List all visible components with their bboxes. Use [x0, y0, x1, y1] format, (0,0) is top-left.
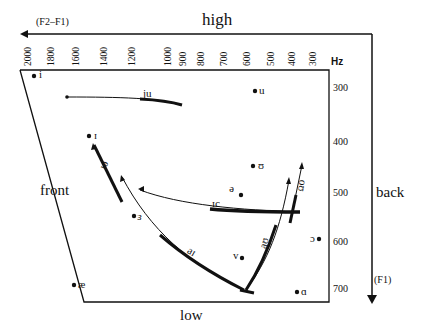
x-axis-note: (F2–F1)	[36, 16, 69, 27]
x-tick: 1400	[99, 47, 109, 66]
y-tick: 500	[333, 187, 348, 198]
x-tick: 1600	[71, 47, 81, 66]
x-tick: 2000	[23, 47, 33, 66]
diphthong-label-oi: ɔɪ	[212, 200, 220, 212]
y-axis-note: (F1)	[374, 274, 391, 285]
vowel-chart-graphics	[0, 0, 425, 334]
vowel-ash: æ	[78, 278, 85, 290]
vowel-u: u	[259, 84, 265, 96]
x-axis-arrowhead-icon	[20, 30, 28, 38]
low-label: low	[180, 307, 203, 324]
vowel-script-a: ɑ	[301, 285, 307, 297]
diphthong-label-ju: ju	[143, 87, 152, 99]
x-tick: 300	[308, 52, 318, 66]
y-axis-arrowhead-icon	[367, 295, 377, 304]
diphthong-label-ou: oʊ	[296, 179, 310, 192]
x-tick: 700	[219, 52, 229, 66]
vowel-i: i	[39, 68, 42, 80]
x-tick: 800	[196, 52, 206, 66]
y-tick: 600	[333, 236, 348, 247]
y-tick: 700	[333, 283, 348, 294]
vowel-wedge: ʌ	[233, 252, 239, 264]
diphthong-au-thin	[246, 180, 289, 290]
x-tick: 1800	[46, 47, 56, 66]
vowel-epsilon: ɛ	[137, 213, 142, 225]
x-tick: 600	[242, 52, 252, 66]
x-tick: 500	[266, 52, 276, 66]
high-label: high	[202, 10, 232, 30]
back-label: back	[376, 184, 404, 201]
diphthong-au-thick	[246, 225, 276, 290]
vowel-e: e	[229, 185, 234, 197]
diphthong-ei	[94, 145, 122, 202]
diphthong-ai-thin	[122, 177, 244, 290]
vowel-open-o: ɔ	[310, 232, 315, 244]
x-tick: 1000	[163, 47, 173, 66]
vowel-small-cap-i: ɪ	[94, 129, 97, 141]
x-tick: 400	[287, 52, 297, 66]
unit-label: Hz	[331, 56, 343, 67]
x-tick: 1200	[127, 47, 137, 66]
front-label: front	[40, 182, 69, 199]
vowel-upsilon: ʊ	[258, 159, 264, 171]
y-tick: 300	[333, 82, 348, 93]
x-tick: 900	[178, 52, 188, 66]
diphthong-ju-thick	[140, 99, 182, 105]
diphthong-ou-thick	[290, 195, 296, 223]
y-tick: 400	[333, 136, 348, 147]
